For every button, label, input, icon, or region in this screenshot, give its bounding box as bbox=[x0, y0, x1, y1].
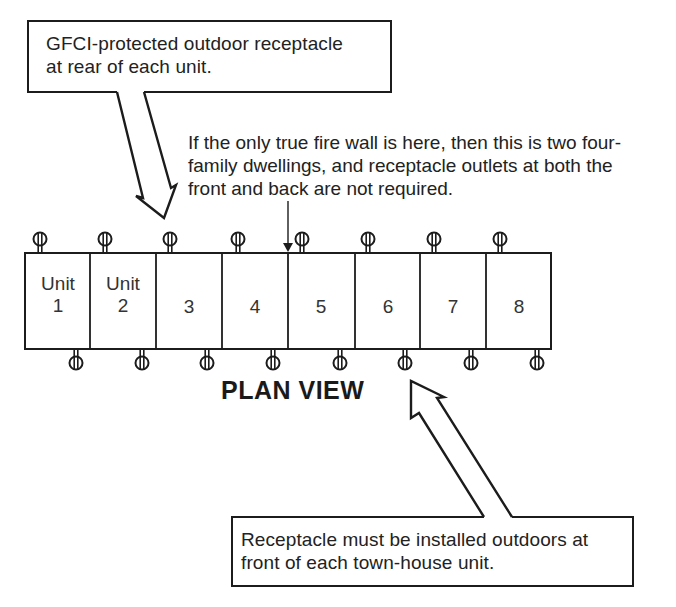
rear-callout-arrow-icon bbox=[117, 92, 176, 218]
receptacle-icon bbox=[99, 233, 112, 254]
plan-view-title: PLAN VIEW bbox=[221, 376, 364, 405]
front-callout-line-2: front of each town-house unit. bbox=[241, 551, 588, 574]
receptacle-icon bbox=[428, 233, 441, 254]
front-callout-line-1: Receptacle must be installed outdoors at bbox=[241, 528, 588, 551]
receptacle-icon bbox=[232, 233, 245, 254]
unit-label-7: 7 bbox=[420, 296, 486, 318]
receptacle-icon bbox=[334, 349, 347, 370]
front-receptacles bbox=[70, 349, 544, 370]
fire-wall-note-line-1: If the only true fire wall is here, then… bbox=[188, 131, 621, 154]
unit-label-8: 8 bbox=[486, 296, 552, 318]
receptacle-icon bbox=[465, 349, 478, 370]
receptacle-icon bbox=[362, 233, 375, 254]
fire-wall-note-line-3: front and back are not required. bbox=[188, 177, 621, 200]
rear-callout-line-1: GFCI-protected outdoor receptacle bbox=[46, 32, 343, 55]
unit-label-3: 3 bbox=[156, 296, 222, 318]
rear-receptacles bbox=[34, 233, 507, 254]
receptacle-icon bbox=[34, 233, 47, 254]
front-callout-arrow-icon bbox=[411, 381, 512, 517]
unit-label-1: Unit 1 bbox=[25, 273, 91, 317]
unit-label-4: 4 bbox=[222, 296, 288, 318]
receptacle-icon bbox=[164, 233, 177, 254]
receptacle-icon bbox=[399, 349, 412, 370]
receptacle-icon bbox=[531, 349, 544, 370]
receptacle-icon bbox=[494, 233, 507, 254]
fire-wall-note: If the only true fire wall is here, then… bbox=[188, 131, 621, 200]
receptacle-icon bbox=[201, 349, 214, 370]
fire-wall-note-line-2: family dwellings, and receptacle outlets… bbox=[188, 154, 621, 177]
rear-callout-line-2: at rear of each unit. bbox=[46, 55, 343, 78]
fire-wall-pointer-icon bbox=[283, 243, 293, 252]
receptacle-icon bbox=[296, 233, 309, 254]
receptacle-icon bbox=[136, 349, 149, 370]
unit-label-6: 6 bbox=[355, 296, 421, 318]
front-callout-text: Receptacle must be installed outdoors at… bbox=[241, 528, 588, 574]
receptacle-icon bbox=[70, 349, 83, 370]
unit-label-5: 5 bbox=[288, 296, 354, 318]
unit-label-2: Unit 2 bbox=[90, 273, 156, 317]
receptacle-icon bbox=[267, 349, 280, 370]
rear-callout-text: GFCI-protected outdoor receptacle at rea… bbox=[46, 32, 343, 78]
